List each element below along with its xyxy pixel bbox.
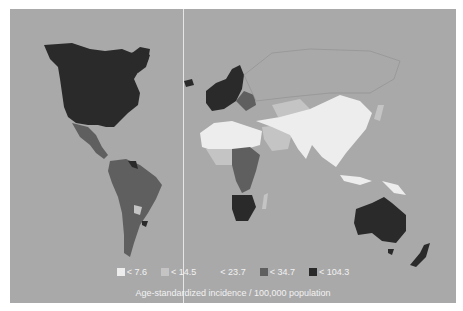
meridian-divider-line (183, 9, 184, 303)
legend-label-5: < 104.3 (319, 267, 349, 277)
region-west-africa (206, 149, 232, 165)
legend-swatch-1 (117, 268, 125, 276)
region-europe-west (206, 65, 244, 111)
region-north-africa (200, 121, 262, 151)
legend-item-4: < 34.7 (260, 267, 295, 277)
region-southern-africa (232, 195, 256, 221)
region-uruguay (142, 221, 148, 227)
legend-swatch-2 (161, 268, 169, 276)
map-panel: < 7.6 < 14.5 < 23.7 < 34.7 < 104.3 Age-s… (10, 9, 456, 303)
legend-item-5: < 104.3 (309, 267, 349, 277)
legend-swatch-3 (210, 268, 218, 276)
region-papua (382, 181, 406, 195)
legend-item-1: < 7.6 (117, 267, 147, 277)
legend-label-1: < 7.6 (127, 267, 147, 277)
world-choropleth-map (10, 9, 456, 303)
map-legend: < 7.6 < 14.5 < 23.7 < 34.7 < 104.3 (10, 265, 456, 279)
region-central-africa (232, 147, 260, 193)
legend-label-3: < 23.7 (220, 267, 245, 277)
region-tasmania (388, 249, 394, 255)
legend-swatch-5 (309, 268, 317, 276)
region-australia (354, 197, 406, 243)
legend-item-3: < 23.7 (210, 267, 245, 277)
region-mexico (72, 123, 108, 159)
region-indonesia (340, 175, 372, 185)
region-japan (374, 105, 384, 121)
legend-label-2: < 14.5 (171, 267, 196, 277)
region-russia (244, 49, 400, 101)
legend-item-2: < 14.5 (161, 267, 196, 277)
region-new-zealand (410, 243, 430, 267)
region-madagascar (262, 193, 268, 209)
legend-swatch-4 (260, 268, 268, 276)
legend-title: Age-standardized incidence / 100,000 pop… (10, 288, 456, 298)
region-iceland (184, 79, 194, 87)
legend-label-4: < 34.7 (270, 267, 295, 277)
